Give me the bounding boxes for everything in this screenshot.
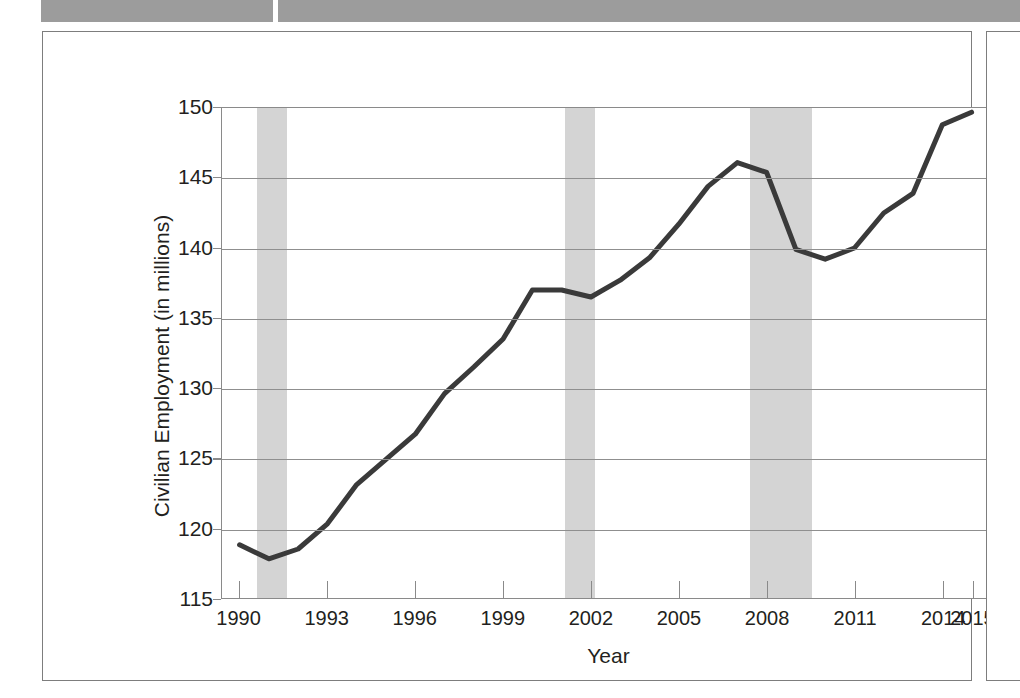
x-tick-mark-2014 bbox=[943, 581, 944, 599]
gridline-y-135 bbox=[222, 319, 995, 320]
plot-area bbox=[221, 107, 996, 599]
x-tick-mark-2002 bbox=[591, 581, 592, 599]
y-tick-label-125: 125 bbox=[155, 447, 213, 468]
x-tick-label-2011: 2011 bbox=[815, 608, 895, 628]
x-tick-mark-2008 bbox=[767, 581, 768, 599]
y-tick-mark-130 bbox=[213, 388, 221, 389]
gridline-y-120 bbox=[222, 530, 995, 531]
x-tick-label-1990: 1990 bbox=[199, 608, 279, 628]
y-axis-tick-labels: 150145140135130125120115 bbox=[151, 107, 213, 599]
adjacent-column-panel bbox=[986, 31, 1020, 681]
x-tick-label-2008: 2008 bbox=[727, 608, 807, 628]
x-tick-label-1999: 1999 bbox=[463, 608, 543, 628]
y-tick-label-145: 145 bbox=[155, 166, 213, 187]
x-tick-mark-2005 bbox=[679, 581, 680, 599]
y-tick-mark-145 bbox=[213, 177, 221, 178]
y-tick-mark-125 bbox=[213, 458, 221, 459]
gridline-y-140 bbox=[222, 249, 995, 250]
x-axis-tick-labels: 1990199319961999200220052008201120142015 bbox=[221, 599, 996, 639]
header-redacted-block-right bbox=[278, 0, 1020, 22]
y-tick-mark-120 bbox=[213, 529, 221, 530]
x-tick-mark-1999 bbox=[503, 581, 504, 599]
x-tick-mark-2011 bbox=[855, 581, 856, 599]
x-axis-title: Year bbox=[221, 644, 996, 668]
y-tick-label-140: 140 bbox=[155, 237, 213, 258]
y-tick-label-130: 130 bbox=[155, 377, 213, 398]
y-tick-mark-140 bbox=[213, 248, 221, 249]
figure-panel: Civilian Employment (in millions) 150145… bbox=[42, 31, 972, 681]
x-tick-label-2005: 2005 bbox=[639, 608, 719, 628]
page-root: Civilian Employment (in millions) 150145… bbox=[0, 0, 1020, 698]
series-line-civilian-employment bbox=[222, 108, 995, 598]
y-tick-label-135: 135 bbox=[155, 307, 213, 328]
y-tick-mark-135 bbox=[213, 318, 221, 319]
y-tick-label-150: 150 bbox=[155, 96, 213, 117]
gridline-y-125 bbox=[222, 459, 995, 460]
y-axis-title-host: Civilian Employment (in millions) bbox=[103, 107, 133, 599]
gridline-y-130 bbox=[222, 389, 995, 390]
header-redacted-block-left bbox=[41, 0, 273, 22]
x-tick-label-2002: 2002 bbox=[551, 608, 631, 628]
x-tick-mark-1996 bbox=[415, 581, 416, 599]
x-tick-label-1996: 1996 bbox=[375, 608, 455, 628]
y-tick-label-120: 120 bbox=[155, 518, 213, 539]
x-tick-label-1993: 1993 bbox=[287, 608, 367, 628]
gridline-y-145 bbox=[222, 178, 995, 179]
x-tick-mark-1993 bbox=[327, 581, 328, 599]
y-tick-mark-115 bbox=[213, 599, 221, 600]
y-tick-label-115: 115 bbox=[155, 588, 213, 609]
x-tick-mark-2015 bbox=[973, 581, 974, 599]
x-tick-mark-1990 bbox=[239, 581, 240, 599]
y-tick-mark-150 bbox=[213, 107, 221, 108]
